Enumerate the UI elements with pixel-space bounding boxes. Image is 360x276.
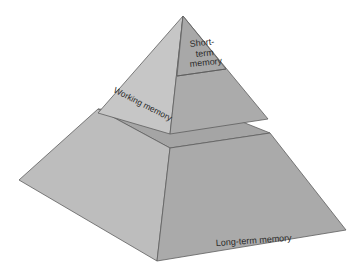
working-memory-block: Working memory Short- term memory (98, 16, 268, 134)
memory-pyramid-diagram: Long-term memory Working memory Short- t… (0, 0, 360, 276)
